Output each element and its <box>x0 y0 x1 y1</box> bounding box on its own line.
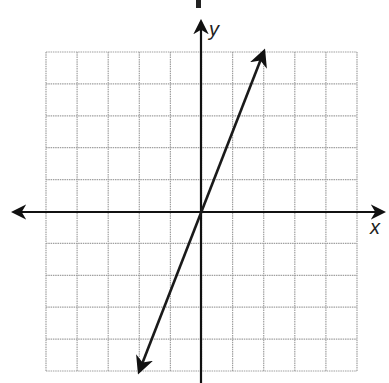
x-axis-label: x <box>370 216 380 239</box>
y-axis-label: y <box>209 18 219 41</box>
coordinate-plane <box>0 0 389 383</box>
top-mark <box>196 0 201 8</box>
